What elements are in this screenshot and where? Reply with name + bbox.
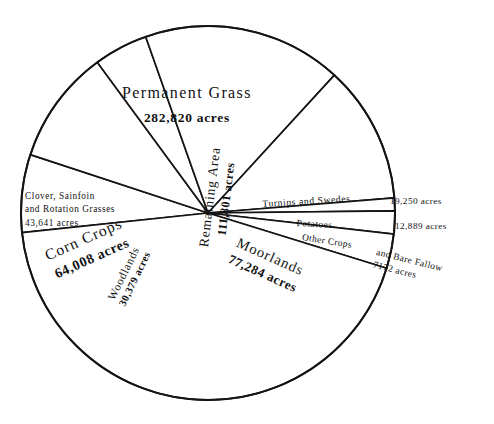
slice-label-potatoes-name: Potatoes bbox=[296, 218, 332, 231]
slice-label-turnips-swedes-value: 19,250 acres bbox=[390, 196, 442, 207]
slice-label-permanent-grass-value: 282,820 acres bbox=[122, 110, 252, 126]
slice-label-permanent-grass: Permanent Grass 282,820 acres bbox=[122, 83, 252, 126]
slice-label-clover-line2: and Rotation Grasses bbox=[25, 203, 115, 216]
slice-label-potatoes-value: 12,889 acres bbox=[395, 221, 447, 232]
slice-label-permanent-grass-name: Permanent Grass bbox=[122, 83, 252, 103]
slice-label-clover-line1: Clover, Sainfoin bbox=[25, 190, 115, 203]
pie-chart-figure: Permanent Grass 282,820 acres Clover, Sa… bbox=[0, 0, 494, 424]
